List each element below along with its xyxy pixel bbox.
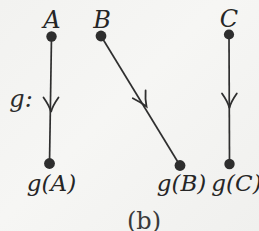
figure-b-mapping-diagram: A B C g: g(A) g(B) g(C) (b) — [0, 0, 259, 231]
node-dot-g-c — [224, 159, 234, 169]
mapping-arrow-b — [96, 31, 186, 171]
figure-caption: (b) — [127, 207, 161, 231]
function-label: g: — [9, 85, 32, 113]
arrow-line-c — [229, 35, 230, 165]
mapping-arrow-a — [44, 31, 59, 169]
arrow-line-a — [50, 37, 52, 164]
label-domain-a: A — [41, 6, 60, 34]
label-image-g-a: g(A) — [27, 170, 76, 196]
mapping-arrow-c — [222, 29, 237, 169]
label-image-g-b: g(B) — [157, 170, 207, 196]
label-image-g-c: g(C) — [211, 170, 259, 196]
label-domain-b: B — [92, 6, 111, 34]
node-dot-g-a — [44, 158, 55, 169]
arrow-line-b — [101, 36, 180, 166]
diagram-canvas: A B C g: g(A) g(B) g(C) (b) — [0, 0, 259, 231]
label-domain-c: C — [220, 5, 238, 33]
